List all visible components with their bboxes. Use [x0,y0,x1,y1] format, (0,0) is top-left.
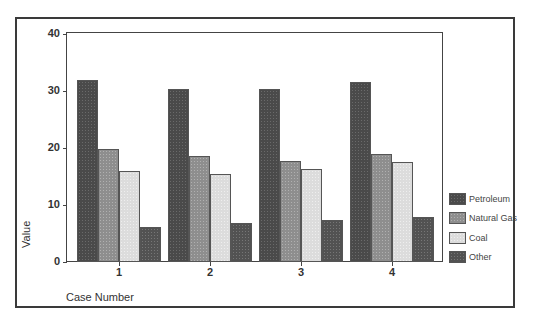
x-tick-label: 4 [382,266,402,278]
y-tick-mark [63,148,67,149]
bar-other [413,217,434,262]
bar-natural-gas [98,149,119,262]
y-tick-label: 20 [38,141,60,153]
bar-coal [392,162,413,262]
legend-swatch [449,212,466,224]
x-tick-label: 1 [109,266,129,278]
y-tick-label: 10 [38,198,60,210]
x-axis-label: Case Number [66,291,134,303]
bar-natural-gas [189,156,210,262]
legend-swatch [449,193,466,205]
y-tick-mark [63,262,67,263]
legend-item: Coal [449,231,488,245]
legend-label: Other [469,252,492,262]
y-tick-mark [63,205,67,206]
bar-other [140,227,161,262]
bar-natural-gas [371,154,392,262]
legend-item: Petroleum [449,192,510,206]
legend-label: Coal [469,233,488,243]
bar-natural-gas [280,161,301,262]
bar-coal [301,169,322,262]
y-tick-label: 0 [38,255,60,267]
y-tick-label: 40 [38,27,60,39]
legend-item: Natural Gas [449,211,517,225]
y-tick-mark [63,91,67,92]
legend-swatch [449,232,466,244]
bar-petroleum [350,82,371,262]
bar-other [231,223,252,262]
bar-other [322,220,343,262]
y-tick-mark [63,34,67,35]
legend-swatch [449,251,466,263]
y-axis-label: Value [20,221,32,248]
y-tick-label: 30 [38,84,60,96]
legend-label: Petroleum [469,194,510,204]
bar-coal [119,171,140,262]
bar-petroleum [77,80,98,262]
legend-label: Natural Gas [469,213,517,223]
bar-petroleum [168,89,189,262]
x-tick-label: 3 [291,266,311,278]
legend-item: Other [449,250,492,264]
x-tick-label: 2 [200,266,220,278]
bar-petroleum [259,89,280,262]
bar-coal [210,174,231,262]
